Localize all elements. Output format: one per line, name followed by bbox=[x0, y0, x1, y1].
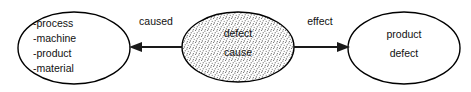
node-causes-line-1: -process bbox=[33, 17, 73, 29]
edge-effect-label: effect bbox=[307, 15, 333, 27]
node-causes-line-2: -machine bbox=[33, 32, 76, 44]
node-causes-line-4: -material bbox=[33, 62, 74, 74]
node-causes-line-3: -product bbox=[33, 47, 72, 59]
edge-caused-label: caused bbox=[139, 15, 173, 27]
node-defect-cause-line-1: defect bbox=[224, 27, 253, 39]
node-product-defect-line-1: product bbox=[386, 28, 421, 40]
edge-caused-arrowhead-icon bbox=[129, 42, 142, 52]
node-product-defect-line-2: defect bbox=[390, 47, 419, 59]
node-defect-cause-line-2: cause bbox=[224, 46, 252, 58]
cause-effect-diagram: -process -machine -product -material def… bbox=[0, 0, 471, 92]
diagram-canvas: -process -machine -product -material def… bbox=[0, 0, 471, 92]
